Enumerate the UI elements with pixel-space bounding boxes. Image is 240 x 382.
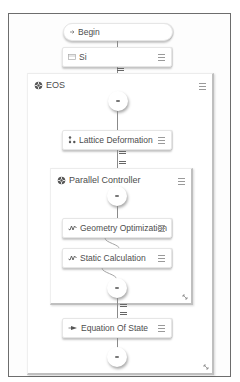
eos-title: EOS bbox=[34, 80, 65, 90]
equation-of-state-node[interactable]: Equation Of State bbox=[62, 318, 172, 338]
waveform-icon bbox=[68, 225, 77, 231]
parallel-controller-label: Parallel Controller bbox=[69, 175, 141, 185]
si-label: Si bbox=[79, 52, 87, 62]
hamburger-menu-icon[interactable] bbox=[158, 325, 165, 332]
static-calculation-node[interactable]: Static Calculation bbox=[62, 248, 172, 268]
connector bbox=[117, 150, 118, 168]
hamburger-menu-icon[interactable] bbox=[158, 137, 165, 144]
hamburger-menu-icon[interactable] bbox=[199, 83, 206, 90]
eos-label: EOS bbox=[46, 80, 65, 90]
static-calculation-label: Static Calculation bbox=[80, 253, 146, 263]
connector bbox=[117, 111, 118, 130]
hamburger-menu-icon[interactable] bbox=[178, 178, 185, 185]
hamburger-menu-icon[interactable] bbox=[158, 255, 165, 262]
geometry-optimization-label: Geometry Optimization bbox=[80, 223, 167, 233]
connector bbox=[117, 298, 118, 318]
begin-node[interactable]: Begin bbox=[63, 23, 173, 41]
resize-handle-icon[interactable] bbox=[182, 294, 188, 300]
loop-controller-icon bbox=[34, 81, 43, 90]
output-port-icon[interactable] bbox=[120, 304, 127, 307]
lattice-nodes-icon bbox=[68, 136, 76, 144]
resize-handle-icon[interactable] bbox=[203, 364, 209, 370]
parallel-controller-icon bbox=[57, 176, 66, 185]
parallel-controller-title: Parallel Controller bbox=[57, 175, 141, 185]
equation-of-state-label: Equation Of State bbox=[81, 323, 148, 333]
hamburger-menu-icon[interactable] bbox=[158, 225, 165, 232]
parallel-start-node[interactable] bbox=[107, 186, 127, 206]
begin-label: Begin bbox=[78, 27, 100, 37]
waveform-icon bbox=[68, 255, 77, 261]
eos-start-node[interactable] bbox=[108, 91, 128, 111]
output-port-icon[interactable] bbox=[119, 151, 126, 154]
structure-icon bbox=[68, 54, 76, 60]
eos-end-node[interactable] bbox=[107, 347, 127, 367]
connector bbox=[117, 206, 118, 218]
hamburger-menu-icon[interactable] bbox=[158, 54, 165, 61]
output-port-icon[interactable] bbox=[117, 68, 124, 71]
lattice-deformation-node[interactable]: Lattice Deformation bbox=[62, 130, 172, 150]
lattice-deformation-label: Lattice Deformation bbox=[79, 135, 153, 145]
si-node[interactable]: Si bbox=[62, 47, 172, 67]
input-port-icon[interactable] bbox=[119, 161, 126, 164]
eos-fit-icon bbox=[68, 325, 78, 331]
geometry-optimization-node[interactable]: Geometry Optimization bbox=[62, 218, 172, 238]
parallel-end-node[interactable] bbox=[107, 278, 127, 298]
input-port-icon[interactable] bbox=[120, 312, 127, 315]
begin-arrow-icon bbox=[69, 29, 75, 35]
